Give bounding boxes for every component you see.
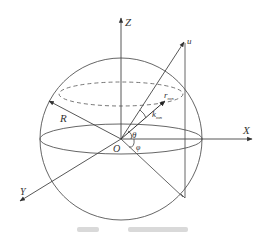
phi-arc <box>129 139 134 147</box>
spherical-coordinate-diagram: Z X Y O R u rmn kmn θ φ <box>0 0 266 238</box>
x-axis-label: X <box>242 124 251 136</box>
theta-label: θ <box>132 130 137 140</box>
k-mn-label: kmn <box>152 109 163 120</box>
y-axis-label: Y <box>20 186 27 197</box>
y-axis <box>20 139 121 201</box>
u-vector-label: u <box>187 36 192 46</box>
r-mn-point <box>160 101 163 104</box>
r-mn-label: rmn <box>164 90 174 101</box>
origin-label: O <box>113 143 120 154</box>
figure-caption-blurred <box>128 227 188 232</box>
figure-caption-blurred <box>77 227 99 232</box>
k-mn-vector <box>121 101 165 139</box>
u-vector <box>121 42 184 139</box>
z-axis-label: Z <box>125 16 132 28</box>
azimuth-projection-line <box>121 139 183 197</box>
k-angle-arc <box>140 110 146 118</box>
radius-label: R <box>59 112 67 124</box>
phi-label: φ <box>136 143 141 152</box>
